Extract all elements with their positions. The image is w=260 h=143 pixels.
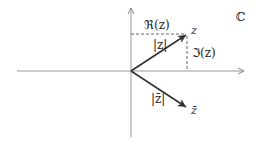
- modulus-z-conjugate-label: |z̄|: [151, 92, 165, 106]
- modulus-z-label: |z|: [153, 38, 167, 52]
- plane-label: ℂ: [236, 10, 246, 24]
- z-label: z: [190, 24, 197, 37]
- complex-plane-diagram: ℂ ℜ(z) z |z| ℑ(z) |z̄| z̄: [0, 0, 260, 143]
- real-part-label: ℜ(z): [144, 18, 170, 32]
- imaginary-part-label: ℑ(z): [192, 46, 216, 60]
- z-conjugate-label: z̄: [190, 104, 197, 117]
